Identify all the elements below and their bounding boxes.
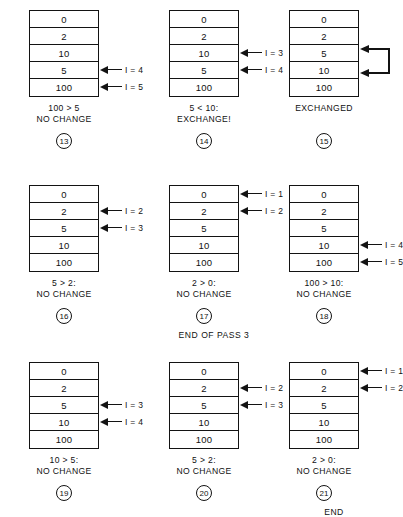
panel-caption: 100 > 10:NO CHANGE [268,278,380,300]
index-pointer-label: I = 4 [125,417,143,427]
step-number-badge: 20 [148,482,260,501]
caption-line-1: 100 > 10: [268,278,380,289]
index-pointer: I = 1 [240,185,283,202]
array-cell: 100 [290,254,358,271]
array-stack: 02510100 [289,10,359,97]
array-cell: 0 [290,11,358,28]
index-pointer-label: I = 4 [265,65,283,75]
step-number-value: 21 [316,485,332,501]
index-pointer-label: I = 4 [385,240,403,250]
array-cell: 2 [170,380,238,397]
step-number-value: 18 [316,308,332,324]
array-cell: 2 [290,203,358,220]
step-number-value: 17 [196,308,212,324]
step-number-value: 16 [56,308,72,324]
array-cell: 2 [30,203,98,220]
left-arrow-icon [360,367,382,375]
panel-caption: 10 > 5:NO CHANGE [8,455,120,477]
index-pointer: I = 5 [100,78,143,95]
array-cell: 5 [290,397,358,414]
left-arrow-icon [360,258,382,266]
array-cell: 100 [30,254,98,271]
index-pointer-label: I = 2 [265,383,283,393]
step-number-badge: 13 [8,130,120,149]
left-arrow-icon [240,207,262,215]
array-cell: 5 [30,397,98,414]
index-pointer-label: I = 2 [265,206,283,216]
caption-line-1: 2 > 0: [148,278,260,289]
array-stack: 02510100 [29,185,99,272]
left-arrow-icon [100,207,122,215]
caption-line-2: NO CHANGE [148,466,260,477]
caption-line-2: NO CHANGE [8,466,120,477]
array-cell: 0 [290,186,358,203]
index-pointer: I = 1 [360,362,403,379]
caption-line-2: NO CHANGE [268,466,380,477]
panel-note: END [268,507,400,517]
array-cell: 100 [30,431,98,448]
index-pointer-label: I = 4 [125,65,143,75]
array-cell: 2 [30,380,98,397]
step-number-badge: 16 [8,305,120,324]
array-cell: 0 [170,186,238,203]
array-cell: 0 [290,363,358,380]
index-pointer-label: I = 3 [265,48,283,58]
array-cell: 100 [170,79,238,96]
array-cell: 10 [170,237,238,254]
array-cell: 10 [30,414,98,431]
array-cell: 0 [170,11,238,28]
exchange-bracket-icon [360,44,390,78]
index-pointer: I = 3 [100,219,143,236]
caption-line-2: NO CHANGE [148,289,260,300]
left-arrow-icon [100,224,122,232]
left-arrow-icon [360,241,382,249]
array-stack: 02510100 [169,362,239,449]
left-arrow-icon [240,401,262,409]
left-arrow-icon [240,190,262,198]
array-stack: 02510100 [169,185,239,272]
panel-caption: EXCHANGED [268,103,380,114]
step-number-value: 20 [196,485,212,501]
index-pointer: I = 2 [240,202,283,219]
array-cell: 100 [30,79,98,96]
index-pointer-label: I = 1 [385,366,403,376]
array-cell: 2 [290,380,358,397]
array-stack: 02510100 [29,362,99,449]
caption-line-2: EXCHANGE! [148,114,260,125]
caption-line-2: NO CHANGE [8,289,120,300]
array-cell: 10 [170,45,238,62]
array-cell: 2 [170,28,238,45]
array-stack: 02510100 [289,362,359,449]
index-pointer-label: I = 2 [125,206,143,216]
index-pointer-label: I = 1 [265,189,283,199]
array-cell: 10 [170,414,238,431]
caption-line-1: 10 > 5: [8,455,120,466]
index-pointer-label: I = 3 [125,400,143,410]
index-pointer-label: I = 5 [125,82,143,92]
array-cell: 5 [170,62,238,79]
index-pointer: I = 2 [240,379,283,396]
array-cell: 5 [290,220,358,237]
caption-line-1: 5 < 10: [148,103,260,114]
panel-caption: 2 > 0:NO CHANGE [268,455,380,477]
array-cell: 0 [30,11,98,28]
index-pointer-label: I = 2 [385,383,403,393]
step-number-value: 15 [316,133,332,149]
array-cell: 2 [170,203,238,220]
step-number-value: 14 [196,133,212,149]
left-arrow-icon [100,66,122,74]
array-cell: 0 [170,363,238,380]
panel-caption: 5 > 2:NO CHANGE [8,278,120,300]
caption-line-2: NO CHANGE [268,289,380,300]
panel-caption: 2 > 0:NO CHANGE [148,278,260,300]
left-arrow-icon [360,384,382,392]
step-number-badge: 21 [268,482,380,501]
array-stack: 02105100 [29,10,99,97]
index-pointer: I = 3 [240,396,283,413]
step-number-badge: 15 [268,130,380,149]
panel-caption: 100 > 5NO CHANGE [8,103,120,125]
index-pointer-label: I = 5 [385,257,403,267]
index-pointer-label: I = 3 [265,400,283,410]
array-stack: 02105100 [169,10,239,97]
panel-caption: 5 < 10:EXCHANGE! [148,103,260,125]
